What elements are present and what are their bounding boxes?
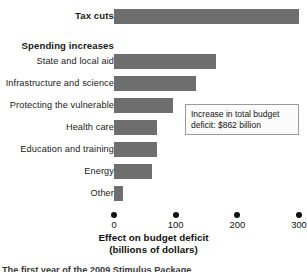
bar <box>114 76 196 91</box>
bar <box>114 142 157 157</box>
category-label: Education and training <box>20 139 114 159</box>
category-label: Tax cuts <box>75 6 114 26</box>
bar <box>114 164 152 179</box>
chart-row: Education and training <box>0 139 307 159</box>
category-label: Other <box>91 183 114 203</box>
x-tick-label: 0 <box>111 219 116 230</box>
annotation-box: Increase in total budget deficit: $862 b… <box>185 104 299 135</box>
annotation-line2: deficit: $862 billion <box>191 120 293 131</box>
x-tick-label: 100 <box>168 219 184 230</box>
x-tick-marker <box>111 212 117 218</box>
bar-chart: Tax cutsSpending increasesState and loca… <box>0 0 307 272</box>
x-axis-title-line1: Effect on budget deficit <box>98 232 208 243</box>
category-label: State and local aid <box>37 51 115 71</box>
figure-caption: The first year of the 2009 Stimulus Pack… <box>2 265 305 272</box>
chart-row: State and local aid <box>0 51 307 71</box>
bar <box>114 186 123 201</box>
annotation-line1: Increase in total budget <box>191 109 279 119</box>
bar <box>114 54 216 69</box>
bar <box>114 9 299 24</box>
x-axis: 0100200300 <box>0 206 307 232</box>
bar <box>114 120 157 135</box>
chart-row: Infrastructure and science <box>0 73 307 93</box>
x-axis-title: Effect on budget deficit (billions of do… <box>0 232 307 255</box>
chart-row: Energy <box>0 161 307 181</box>
category-label: Health care <box>66 117 114 137</box>
x-tick-marker <box>234 212 240 218</box>
category-label: Energy <box>84 161 114 181</box>
bar <box>114 98 173 113</box>
category-label: Protecting the vulnerable <box>10 95 114 115</box>
x-tick-marker <box>173 212 179 218</box>
x-tick-label: 300 <box>291 219 307 230</box>
x-axis-title-line2: (billions of dollars) <box>0 244 307 256</box>
x-tick-label: 200 <box>230 219 246 230</box>
chart-row: Tax cuts <box>0 6 307 26</box>
x-tick-marker <box>296 212 302 218</box>
category-label: Infrastructure and science <box>6 73 114 93</box>
chart-row: Other <box>0 183 307 203</box>
